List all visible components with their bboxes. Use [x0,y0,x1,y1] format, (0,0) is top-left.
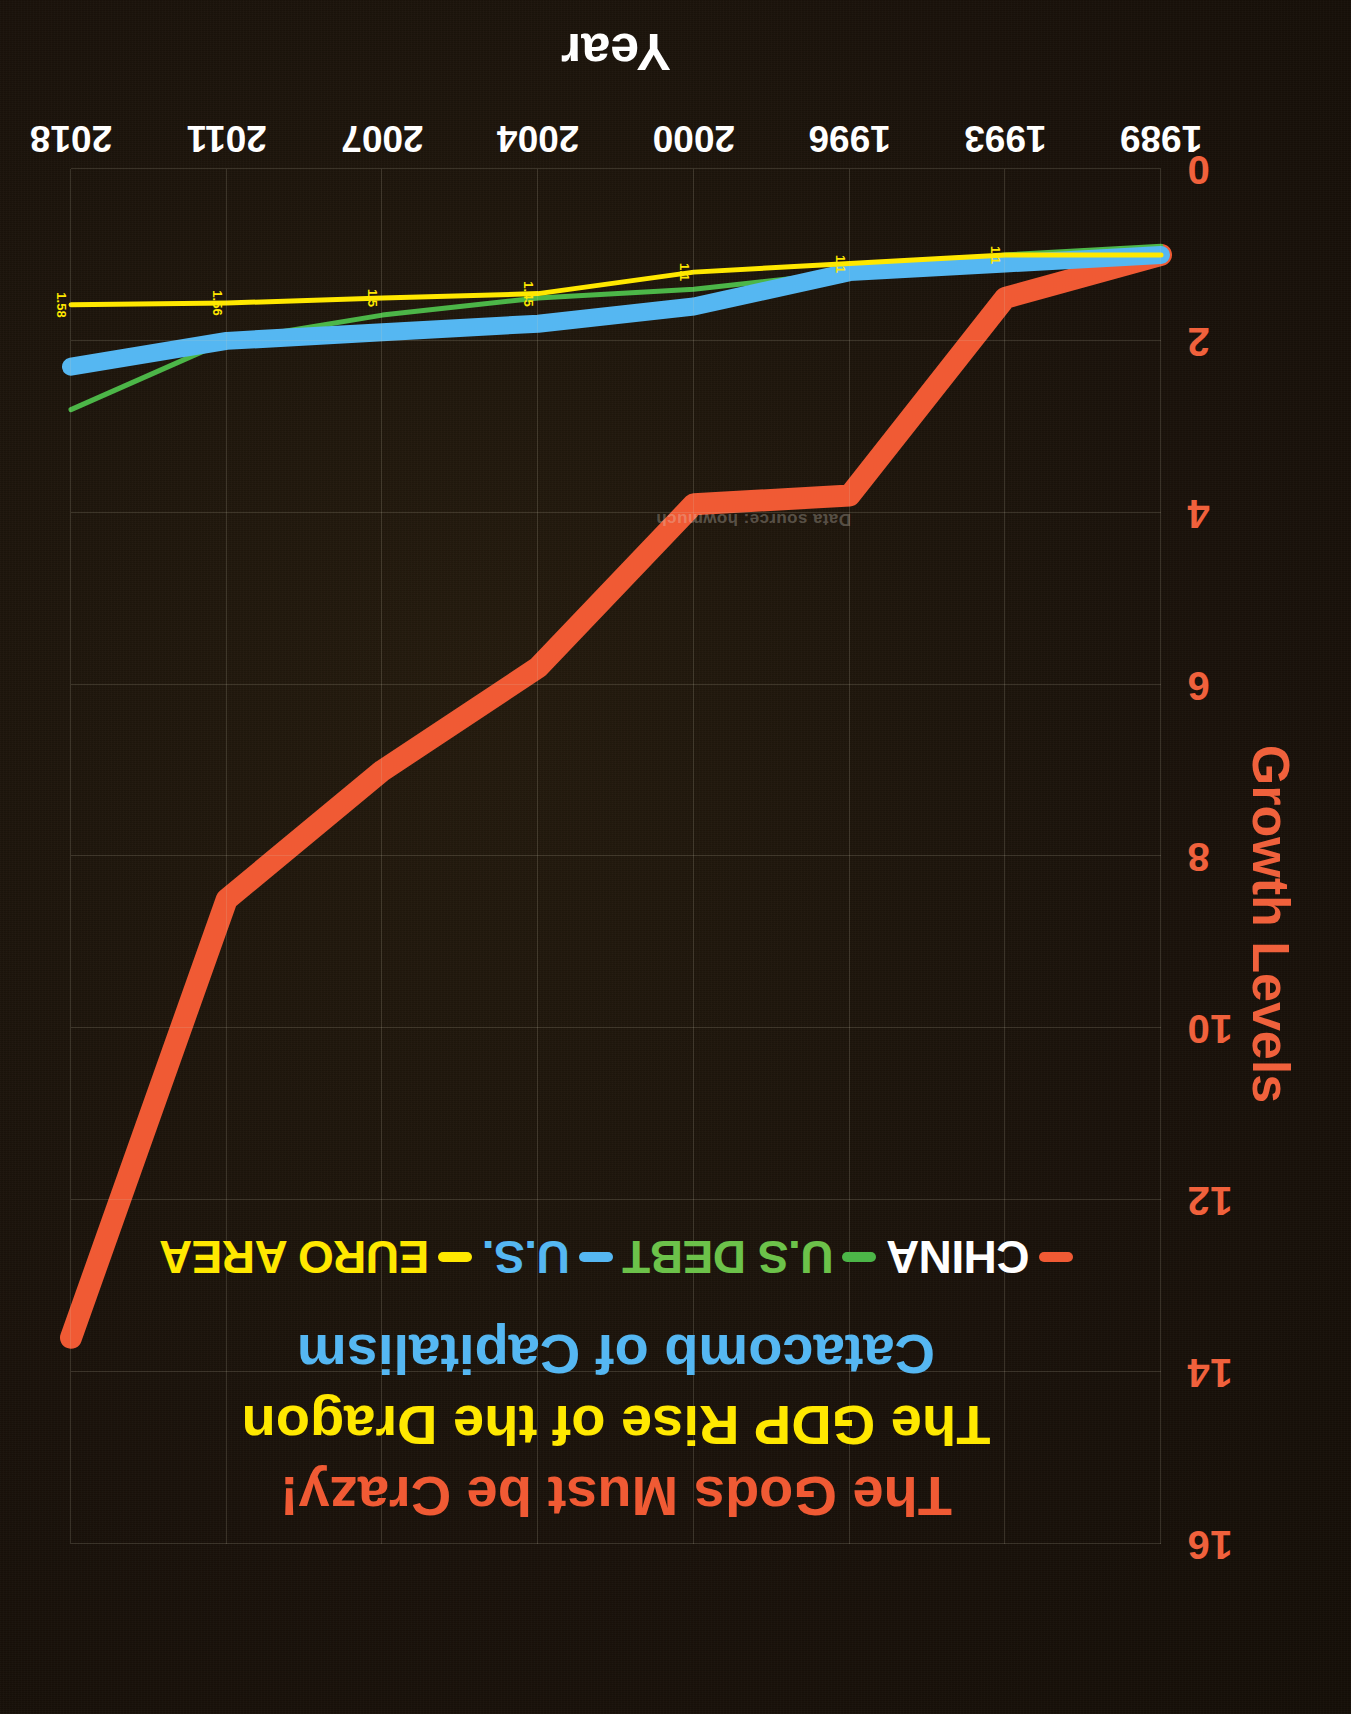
legend-swatch-icon [842,1252,876,1262]
y-tick-label: 16 [1187,1522,1233,1567]
y-axis-title: Growth Levels [1241,544,1301,1304]
y-tick-label: 10 [1187,1006,1233,1051]
x-tick-label: 2004 [497,117,579,159]
x-tick-label: 2018 [30,117,112,159]
x-tick-label: 1996 [808,117,890,159]
chart-title-line-3: Catacomb of Capitalism [71,1321,1161,1386]
gridline-horizontal [71,1543,1161,1544]
gridline-horizontal [71,340,1161,341]
chart: 1.11.11.11.451.51.561.58 0246810121416 G… [0,0,1351,1714]
gridline-horizontal [71,856,1161,857]
legend-item-label: U.S. [482,1230,569,1284]
data-point-label: 1.1 [832,254,847,272]
data-point-label: 1.56 [209,290,224,315]
chart-title-line-2: The GDP Rise of the Dragon [71,1392,1161,1457]
gridline-horizontal [71,684,1161,685]
x-tick-label: 2011 [187,117,267,159]
y-tick-label: 8 [1187,834,1210,879]
gridline-horizontal [71,1199,1161,1200]
x-tick-label: 2007 [341,117,423,159]
gridline-horizontal [71,1027,1161,1028]
legend-item-u-s-[interactable]: U.S. [482,1230,612,1284]
y-tick-label: 2 [1187,318,1210,363]
legend-swatch-icon [1039,1252,1073,1262]
data-point-label: 1.1 [988,246,1003,264]
data-point-label: 1.1 [676,263,691,281]
data-source-watermark: Data source: howmuch [656,509,851,529]
x-tick-label: 1993 [964,117,1046,159]
y-tick-label: 4 [1187,490,1210,535]
legend-swatch-icon [579,1252,613,1262]
y-tick-label: 14 [1187,1350,1233,1395]
legend-item-label: U.S DEBT [623,1230,834,1284]
y-tick-label: 6 [1187,662,1210,707]
chart-legend: CHINAU.S DEBTU.S.EURO AREA [71,1230,1161,1284]
x-axis-title: Year [71,22,1161,82]
legend-item-euro-area[interactable]: EURO AREA [159,1230,472,1284]
x-tick-label: 1989 [1120,117,1202,159]
series-line-china [71,255,1161,1338]
data-point-label: 1.45 [521,281,536,306]
gridline-horizontal [71,512,1161,513]
legend-swatch-icon [438,1252,472,1262]
data-point-label: 1.58 [54,292,69,317]
legend-item-u-s-debt[interactable]: U.S DEBT [623,1230,877,1284]
chart-titles: The Gods Must be Crazy! The GDP Rise of … [71,1321,1161,1528]
legend-item-label: EURO AREA [159,1230,429,1284]
chart-title-line-1: The Gods Must be Crazy! [71,1463,1161,1528]
rotated-chart-container: 1.11.11.11.451.51.561.58 0246810121416 G… [0,0,1351,1714]
chart-photo: 1.11.11.11.451.51.561.58 0246810121416 G… [0,0,1351,1714]
legend-item-china[interactable]: CHINA [886,1230,1072,1284]
data-point-label: 1.5 [365,289,380,307]
legend-item-label: CHINA [886,1230,1029,1284]
x-tick-label: 2000 [653,117,735,159]
y-tick-label: 12 [1187,1178,1233,1223]
